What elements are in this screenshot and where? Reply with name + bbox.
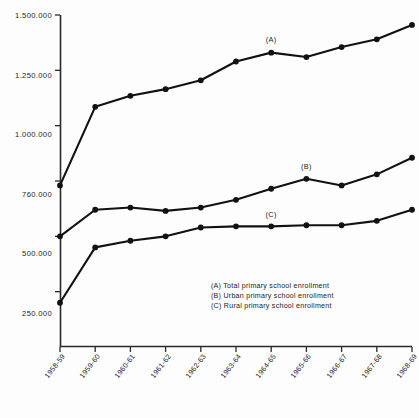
y-tick-label-1000000: 1.000.000 <box>0 130 52 139</box>
series-label-a: (A) <box>266 35 277 44</box>
data-point <box>57 300 63 306</box>
data-point <box>233 223 239 229</box>
y-tick-label-1500000: 1.500.000 <box>0 11 52 20</box>
y-tick-label-1250000: 1.250.000 <box>0 70 52 79</box>
data-point <box>304 176 310 182</box>
data-point <box>409 22 415 28</box>
legend-entry-c: (C) Rural primary school enrollment <box>211 301 386 311</box>
data-point <box>127 93 133 99</box>
series-line-A <box>60 25 412 185</box>
data-point <box>233 197 239 203</box>
y-axis-ticks <box>55 15 60 292</box>
data-point <box>57 183 63 189</box>
data-point <box>92 207 98 213</box>
data-point <box>339 183 345 189</box>
series-layer <box>57 22 415 306</box>
enrollment-line-chart: 1.500.000 1.250.000 1.000.000 760.000 50… <box>0 0 419 418</box>
data-point <box>409 155 415 161</box>
data-point <box>127 238 133 244</box>
data-point <box>339 44 345 50</box>
data-point <box>163 233 169 239</box>
data-point <box>57 233 63 239</box>
y-tick-label-750000: 760.000 <box>0 189 52 198</box>
data-point <box>268 223 274 229</box>
data-point <box>198 225 204 231</box>
chart-legend: (A) Total primary school enrollment (B) … <box>211 281 386 312</box>
data-point <box>198 205 204 211</box>
data-point <box>339 222 345 228</box>
data-point <box>374 218 380 224</box>
y-tick-label-500000: 500.000 <box>0 249 52 258</box>
data-point <box>268 50 274 56</box>
series-label-b: (B) <box>301 162 312 171</box>
data-point <box>304 222 310 228</box>
y-tick-label-250000: 250.000 <box>0 309 52 318</box>
data-point <box>374 171 380 177</box>
data-point <box>374 36 380 42</box>
data-point <box>127 205 133 211</box>
data-point <box>233 59 239 65</box>
series-label-c: (C) <box>266 210 277 219</box>
data-point <box>163 86 169 92</box>
data-point <box>163 208 169 214</box>
data-point <box>92 104 98 110</box>
data-point <box>304 54 310 60</box>
data-point <box>409 207 415 213</box>
legend-entry-b: (B) Urban primary school enrollment <box>211 291 386 301</box>
legend-entry-a: (A) Total primary school enrollment <box>211 281 386 291</box>
data-point <box>198 77 204 83</box>
data-point <box>268 186 274 192</box>
data-point <box>92 245 98 251</box>
